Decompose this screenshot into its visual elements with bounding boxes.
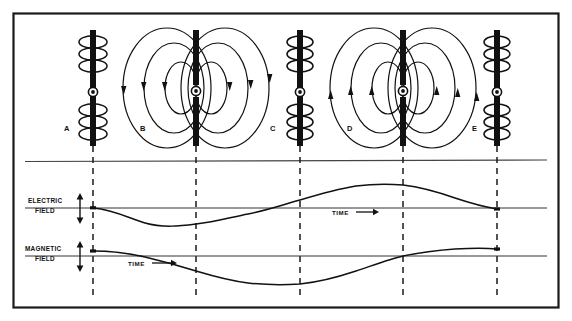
antenna-c-feed-core bbox=[298, 90, 302, 94]
electric-field-label-line1: ELECTRIC bbox=[28, 197, 62, 204]
antenna-a-rod bbox=[90, 96, 96, 146]
antenna-b-rod bbox=[193, 30, 199, 85]
time-label-electric: TIME bbox=[332, 209, 349, 216]
antenna-e-rod bbox=[494, 30, 500, 88]
antenna-e-feed-core bbox=[495, 90, 499, 94]
antenna-d-rod bbox=[400, 97, 406, 146]
panel-letter-a: A bbox=[64, 124, 70, 133]
antenna-d-feed-core bbox=[401, 89, 405, 93]
antenna-c-rod bbox=[297, 96, 303, 146]
panel-letter-d: D bbox=[347, 124, 353, 133]
magnetic-field-label-line1: MAGNETIC bbox=[25, 245, 62, 252]
panel-letter-b: B bbox=[140, 124, 146, 133]
antenna-b-feed-core bbox=[194, 89, 198, 93]
antenna-a-feed-core bbox=[91, 90, 95, 94]
antenna-c-rod bbox=[297, 30, 303, 88]
endpoint-tick bbox=[90, 249, 96, 252]
endpoint-tick bbox=[90, 206, 96, 209]
antenna-b-rod bbox=[193, 97, 199, 146]
figure-canvas: A B bbox=[0, 0, 572, 321]
antenna-d-rod bbox=[400, 30, 406, 85]
em-wave-figure: A B bbox=[0, 0, 572, 321]
endpoint-tick bbox=[494, 247, 500, 250]
antenna-a-rod bbox=[90, 30, 96, 88]
endpoint-tick bbox=[494, 207, 500, 210]
panel-letter-e: E bbox=[472, 124, 477, 133]
time-label-magnetic: TIME bbox=[128, 260, 145, 267]
panel-letter-c: C bbox=[270, 124, 276, 133]
antenna-e-rod bbox=[494, 96, 500, 146]
